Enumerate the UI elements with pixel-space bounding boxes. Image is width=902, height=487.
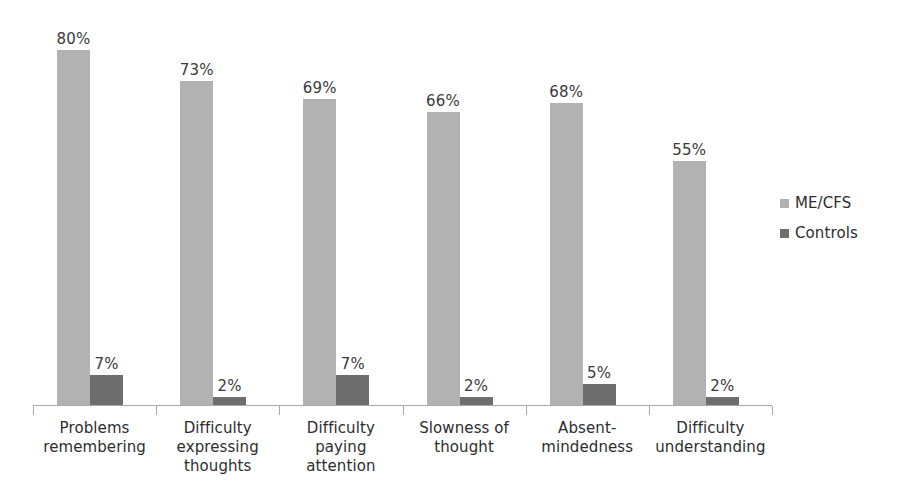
bar-group: 73%2% [156,0,279,406]
axis-tick [526,406,527,415]
axis-tick [772,406,773,415]
axis-tick [403,406,404,415]
bar-me-cfs[interactable]: 73% [180,81,213,406]
bar-value-label: 66% [426,94,460,109]
bar-value-label: 5% [587,366,611,381]
chart-legend: ME/CFSControls [780,188,858,248]
category-label: Difficulty understanding [649,419,772,457]
category-label: Difficulty expressing thoughts [156,419,279,477]
bar-value-label: 2% [218,379,242,394]
legend-swatch-icon [780,229,789,238]
legend-item-controls[interactable]: Controls [780,218,858,248]
axis-tick [649,406,650,415]
legend-label: Controls [795,226,858,241]
category-label: Slowness of thought [403,419,526,457]
category-label: Absent- mindedness [526,419,649,457]
legend-label: ME/CFS [795,196,851,211]
category-label: Difficulty paying attention [279,419,402,477]
bar-value-label: 69% [303,81,337,96]
bar-value-label: 80% [57,32,91,47]
legend-item-me-cfs[interactable]: ME/CFS [780,188,858,218]
bar-controls[interactable]: 7% [90,375,123,406]
bar-me-cfs[interactable]: 66% [427,112,460,406]
bar-me-cfs[interactable]: 68% [550,103,583,406]
bar-group: 68%5% [526,0,649,406]
bar-group: 69%7% [279,0,402,406]
bar-controls[interactable]: 7% [336,375,369,406]
bar-value-label: 2% [710,379,734,394]
bar-me-cfs[interactable]: 55% [673,161,706,406]
bar-value-label: 7% [94,357,118,372]
bar-group: 55%2% [649,0,772,406]
bar-group: 66%2% [403,0,526,406]
bar-value-label: 55% [672,143,706,158]
bar-value-label: 73% [180,63,214,78]
bar-value-label: 7% [341,357,365,372]
bar-me-cfs[interactable]: 80% [57,50,90,406]
axis-tick [33,406,34,415]
bar-me-cfs[interactable]: 69% [303,99,336,406]
axis-tick [156,406,157,415]
category-label: Problems remembering [33,419,156,457]
legend-swatch-icon [780,199,789,208]
bar-controls[interactable]: 5% [583,384,616,406]
bar-chart: 80%7%73%2%69%7%66%2%68%5%55%2% Problems … [0,0,902,487]
bar-value-label: 68% [549,85,583,100]
bar-value-label: 2% [464,379,488,394]
plot-area: 80%7%73%2%69%7%66%2%68%5%55%2% [33,0,772,406]
bar-group: 80%7% [33,0,156,406]
axis-tick [279,406,280,415]
